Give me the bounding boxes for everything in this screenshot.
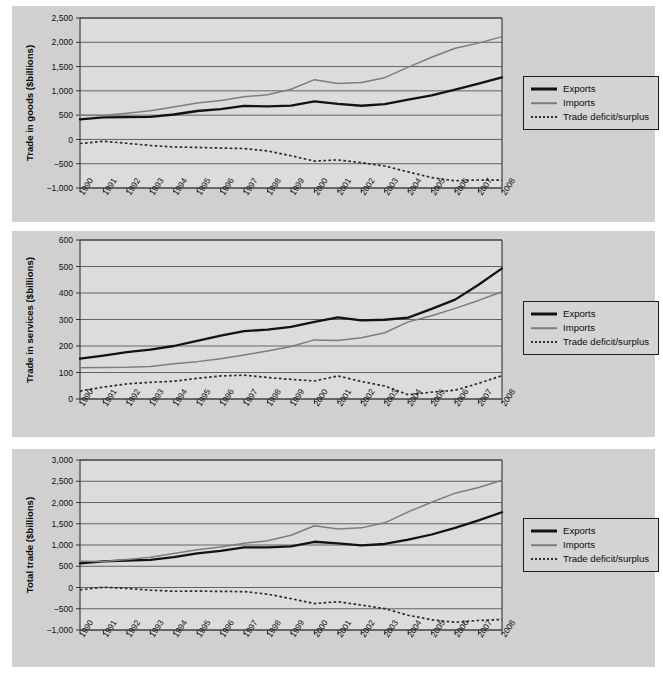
- legend-swatch-exports-icon: [531, 309, 557, 319]
- legend-swatch-imports-icon: [531, 323, 557, 333]
- legend-item-exports: Exports: [531, 307, 649, 321]
- legend-swatch-balance-icon: [531, 112, 557, 122]
- legend-swatch-exports-icon: [531, 84, 557, 94]
- legend-item-balance: Trade deficit/surplus: [531, 110, 649, 124]
- legend-label-imports: Imports: [563, 98, 595, 108]
- legend-services: Exports Imports Trade deficit/surplus: [523, 301, 659, 355]
- legend-label-balance: Trade deficit/surplus: [563, 337, 649, 347]
- legend-item-exports: Exports: [531, 82, 649, 96]
- legend-item-exports: Exports: [531, 524, 649, 538]
- legend-item-balance: Trade deficit/surplus: [531, 552, 649, 566]
- legend-goods: Exports Imports Trade deficit/surplus: [523, 76, 659, 130]
- legend-swatch-balance-icon: [531, 554, 557, 564]
- legend-label-balance: Trade deficit/surplus: [563, 112, 649, 122]
- legend-item-balance: Trade deficit/surplus: [531, 335, 649, 349]
- legend-item-imports: Imports: [531, 538, 649, 552]
- legend-item-imports: Imports: [531, 96, 649, 110]
- legend-item-imports: Imports: [531, 321, 649, 335]
- legend-swatch-exports-icon: [531, 526, 557, 536]
- legend-label-imports: Imports: [563, 540, 595, 550]
- figure-page: Exports Imports Trade deficit/surplus Ex…: [0, 0, 663, 673]
- legend-label-exports: Exports: [563, 526, 596, 536]
- legend-swatch-balance-icon: [531, 337, 557, 347]
- legend-swatch-imports-icon: [531, 98, 557, 108]
- legend-label-exports: Exports: [563, 309, 596, 319]
- legend-swatch-imports-icon: [531, 540, 557, 550]
- legend-label-balance: Trade deficit/surplus: [563, 554, 649, 564]
- legend-label-exports: Exports: [563, 84, 596, 94]
- legend-total: Exports Imports Trade deficit/surplus: [523, 518, 659, 572]
- legend-label-imports: Imports: [563, 323, 595, 333]
